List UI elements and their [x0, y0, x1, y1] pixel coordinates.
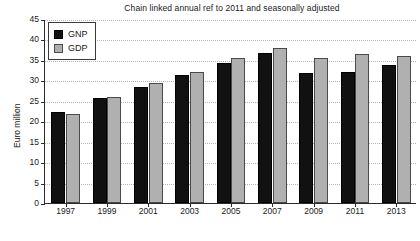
legend-item-gdp: GDP [54, 41, 88, 55]
bar-group [258, 48, 287, 203]
legend-label-gnp: GNP [68, 29, 88, 39]
chart-figure: Chain linked annual ref to 2011 and seas… [0, 0, 420, 241]
bar-gnp-1997 [51, 112, 65, 203]
y-tick-label: 45 [15, 14, 39, 24]
y-tick-label: 5 [15, 178, 39, 188]
bar-gnp-1999 [93, 98, 107, 203]
y-tick-mark [41, 20, 45, 21]
x-tick-label-2007: 2007 [252, 206, 292, 216]
bar-gdp-2005 [231, 58, 245, 203]
y-tick-label: 30 [15, 75, 39, 85]
chart-legend: GNP GDP [48, 22, 96, 60]
y-axis-title: Euro million [2, 48, 12, 92]
y-tick-mark [41, 184, 45, 185]
x-tick-label-2009: 2009 [294, 206, 334, 216]
bar-group [51, 112, 80, 203]
bar-gnp-2001 [134, 87, 148, 203]
bar-group [217, 58, 246, 203]
bar-group [299, 58, 328, 203]
y-tick-label: 25 [15, 96, 39, 106]
plot-area: 051015202530354045 199719992001200320052… [44, 20, 416, 204]
y-tick-label: 35 [15, 55, 39, 65]
y-tick-mark [41, 122, 45, 123]
y-tick-label: 20 [15, 116, 39, 126]
gridline [45, 40, 416, 41]
y-tick-label: 10 [15, 157, 39, 167]
gridline [45, 20, 416, 21]
y-tick-label: 15 [15, 137, 39, 147]
y-tick-mark [41, 163, 45, 164]
bar-gnp-2009 [299, 73, 313, 203]
legend-label-gdp: GDP [68, 43, 88, 53]
bar-group [341, 54, 370, 203]
y-tick-mark [41, 102, 45, 103]
bar-gnp-2011 [341, 72, 355, 203]
bar-gdp-2007 [273, 48, 287, 203]
y-tick-mark [41, 143, 45, 144]
bar-group [382, 56, 411, 203]
legend-swatch-gnp-icon [54, 30, 63, 39]
bar-gnp-2005 [217, 63, 231, 203]
y-tick-mark [41, 61, 45, 62]
bar-gdp-2003 [190, 72, 204, 203]
x-tick-label-1999: 1999 [87, 206, 127, 216]
y-tick-label: 40 [15, 34, 39, 44]
x-tick-label-2001: 2001 [128, 206, 168, 216]
bar-gdp-2001 [149, 83, 163, 203]
bar-group [134, 83, 163, 203]
bar-gdp-1999 [107, 97, 121, 203]
bar-gnp-2013 [382, 65, 396, 203]
bar-gnp-2007 [258, 53, 272, 203]
bar-gnp-2003 [175, 75, 189, 203]
bar-gdp-2013 [397, 56, 411, 203]
bar-group [175, 72, 204, 203]
x-tick-label-2005: 2005 [211, 206, 251, 216]
bar-gdp-1997 [66, 114, 80, 203]
y-tick-label: 0 [15, 198, 39, 208]
x-tick-label-2013: 2013 [376, 206, 416, 216]
chart-title: Chain linked annual ref to 2011 and seas… [44, 3, 420, 13]
legend-item-gnp: GNP [54, 27, 88, 41]
bar-gdp-2011 [355, 54, 369, 203]
legend-swatch-gdp-icon [54, 44, 63, 53]
y-tick-mark [41, 204, 45, 205]
bar-group [93, 97, 122, 203]
bar-gdp-2009 [314, 58, 328, 203]
x-tick-label-1997: 1997 [46, 206, 86, 216]
x-tick-label-2003: 2003 [170, 206, 210, 216]
x-tick-label-2011: 2011 [335, 206, 375, 216]
y-tick-mark [41, 40, 45, 41]
y-tick-mark [41, 81, 45, 82]
